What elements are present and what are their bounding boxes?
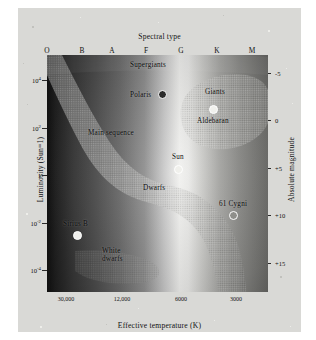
effective-temperature-axis-title: Effective temperature (K) xyxy=(18,321,301,330)
star-marker-61-cygni[interactable] xyxy=(229,211,238,220)
star-label-61-cygni: 61 Cygni xyxy=(219,200,247,208)
spectral-tick-g: G xyxy=(178,46,183,55)
magnitude-tick-p10: +10 xyxy=(271,212,285,219)
region-label-supergiants: Supergiants xyxy=(130,61,166,69)
spectral-tick-a: A xyxy=(109,46,114,55)
spectral-tick-b: B xyxy=(80,46,85,55)
paper-speck xyxy=(32,26,34,28)
spectral-tick-o: O xyxy=(44,46,49,55)
paper-speck xyxy=(268,30,270,32)
magnitude-tick-0: 0 xyxy=(271,117,278,124)
temperature-tick-12000: 12,000 xyxy=(114,296,131,302)
star-label-sun: Sun xyxy=(172,153,184,161)
paper-speck xyxy=(26,213,28,215)
star-marker-sirius-b[interactable] xyxy=(73,231,82,240)
magnitude-tick-p15: +15 xyxy=(271,260,285,267)
paper-speck xyxy=(80,17,81,18)
paper-speck xyxy=(286,68,287,69)
magnitude-tick-p5: +5 xyxy=(271,165,282,172)
star-marker-aldebaran[interactable] xyxy=(209,105,218,114)
paper-speck xyxy=(23,63,24,64)
paper-speck xyxy=(280,276,282,278)
plot-vignette xyxy=(47,55,268,292)
spectral-tick-k: K xyxy=(214,46,219,55)
star-marker-polaris[interactable] xyxy=(158,90,167,99)
spectral-tick-f: F xyxy=(144,46,148,55)
hr-diagram-plot-area: Supergiants Giants Main sequence Dwarfs … xyxy=(47,55,268,292)
temperature-tick-6000: 6000 xyxy=(175,296,187,302)
spectral-type-axis-title: Spectral type xyxy=(18,32,301,41)
paper-speck xyxy=(138,308,139,309)
star-label-aldebaran: Aldebaran xyxy=(197,117,229,125)
paper-speck xyxy=(158,22,159,23)
paper-speck xyxy=(27,104,28,105)
region-label-giants: Giants xyxy=(205,88,225,96)
star-marker-sun[interactable] xyxy=(174,165,183,174)
paper-speck xyxy=(223,15,224,16)
region-label-main-sequence: Main sequence xyxy=(88,129,134,137)
hr-diagram-figure: Spectral type O B A F G K M Luminosity (… xyxy=(0,0,316,340)
absolute-magnitude-axis-title: Absolute magnitude xyxy=(287,100,296,240)
temperature-tick-3000: 3000 xyxy=(230,296,242,302)
region-label-white-dwarfs: White dwarfs xyxy=(102,247,142,264)
magnitude-tick-m5: -5 xyxy=(271,70,281,77)
star-label-sirius-b: Sirius B xyxy=(63,220,88,228)
paper-speck xyxy=(40,326,42,328)
spectral-tick-m: M xyxy=(249,46,256,55)
region-label-dwarfs: Dwarfs xyxy=(143,184,165,192)
temperature-tick-30000: 30,000 xyxy=(58,296,75,302)
star-label-polaris: Polaris xyxy=(130,91,151,99)
